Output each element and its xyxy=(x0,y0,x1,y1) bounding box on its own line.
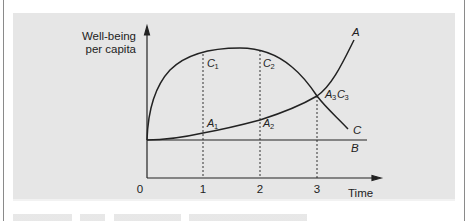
axes xyxy=(145,26,382,181)
x-tick-2: 2 xyxy=(257,183,263,195)
annotation-a1: A 1 xyxy=(206,117,218,131)
svg-text:2: 2 xyxy=(271,62,275,71)
reference-lines xyxy=(203,50,317,178)
svg-text:3: 3 xyxy=(332,93,336,102)
x-tick-0: 0 xyxy=(137,183,143,195)
annotation-a3c3: A 3 C 3 xyxy=(324,88,349,102)
well-being-chart: Well-being per capita 0 1 2 3 Time A C B… xyxy=(0,0,468,221)
curve-a-label: A xyxy=(351,26,360,38)
x-axis-arrow-icon xyxy=(372,176,381,181)
x-tick-3: 3 xyxy=(314,183,320,195)
x-tick-1: 1 xyxy=(200,183,206,195)
x-axis-label: Time xyxy=(348,187,373,199)
y-axis-label-line2: per capita xyxy=(85,43,136,55)
svg-text:2: 2 xyxy=(270,122,274,131)
svg-text:1: 1 xyxy=(214,122,218,131)
curve-c xyxy=(147,48,348,140)
y-axis-arrow-icon xyxy=(145,26,150,35)
svg-text:1: 1 xyxy=(215,62,219,71)
annotation-c1: C 1 xyxy=(207,57,219,71)
svg-text:3: 3 xyxy=(345,93,349,102)
annotation-a2: A 2 xyxy=(262,117,274,131)
curve-c-label: C xyxy=(353,124,362,136)
annotation-c2: C 2 xyxy=(263,57,275,71)
curve-b-label: B xyxy=(351,142,359,154)
figure-caption-cutoff xyxy=(13,214,433,221)
y-axis-label-line1: Well-being xyxy=(82,30,136,42)
curve-a xyxy=(147,40,354,140)
